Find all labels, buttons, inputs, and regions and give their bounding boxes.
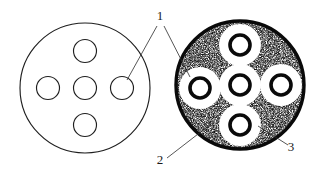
callout-label-3: 3 xyxy=(288,139,295,154)
left-hole-bottom xyxy=(74,114,97,137)
callout-label-2: 2 xyxy=(157,152,164,167)
left-hole-right xyxy=(111,77,134,100)
left-hole-left xyxy=(37,77,60,100)
diagram-canvas: 1 2 3 xyxy=(0,0,325,175)
technical-diagram: 1 2 3 xyxy=(0,0,325,175)
halo-left xyxy=(180,68,220,108)
left-hole-top xyxy=(74,40,97,63)
halo-bottom xyxy=(220,105,260,145)
halo-right xyxy=(261,65,301,105)
left-hole-center xyxy=(74,77,97,100)
callout-label-1: 1 xyxy=(157,8,164,23)
halo-top xyxy=(220,25,260,65)
leader-line-1-left xyxy=(127,26,157,80)
halo-center xyxy=(220,65,260,105)
left-cross-section xyxy=(20,23,150,153)
left-outer-circle xyxy=(20,23,150,153)
leader-line-2 xyxy=(167,124,211,158)
